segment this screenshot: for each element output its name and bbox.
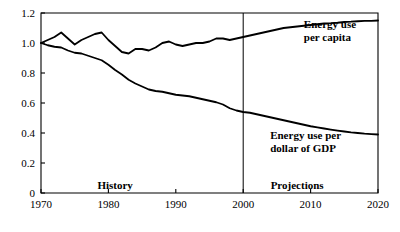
x-axis-tick-label: 2000 [232, 198, 255, 210]
series-line-energy-use-per-dollar-gdp [41, 43, 378, 135]
series-label-line: Energy use per [270, 129, 341, 141]
series-inline-labels: Energy useper capitaEnergy use perdollar… [270, 18, 356, 154]
y-axis-tick-label: 1.2 [21, 7, 35, 19]
y-axis-tick-label: 0.6 [21, 97, 35, 109]
period-label-history: History [97, 179, 133, 191]
energy-intensity-line-chart: 00.20.40.60.81.01.2 19701980199020002010… [0, 0, 400, 232]
series-label-energy-use-per-dollar-of-gdp: Energy use perdollar of GDP [270, 129, 341, 154]
x-axis-tick-label: 2020 [367, 198, 390, 210]
x-axis-tick-label: 1970 [30, 198, 53, 210]
period-annotations: HistoryProjections [97, 179, 324, 191]
x-axis-tick-label: 2010 [300, 198, 323, 210]
y-axis-tick-label: 0.8 [21, 67, 35, 79]
chart-container: 00.20.40.60.81.01.2 19701980199020002010… [0, 0, 400, 232]
period-label-projections: Projections [271, 179, 325, 191]
y-axis-tick-marks [41, 13, 45, 193]
x-axis-tick-labels: 197019801990200020102020 [30, 198, 390, 210]
y-axis-tick-label: 1.0 [21, 37, 35, 49]
series-label-energy-use-per-capita: Energy useper capita [304, 18, 356, 43]
y-axis-tick-label: 0.4 [21, 127, 35, 139]
x-axis-tick-label: 1980 [97, 198, 120, 210]
y-axis-tick-label: 0.2 [21, 157, 35, 169]
series-label-line: dollar of GDP [270, 142, 336, 154]
x-axis-tick-label: 1990 [165, 198, 188, 210]
series-label-line: per capita [304, 31, 352, 43]
x-axis-tick-marks [41, 189, 378, 193]
y-axis-tick-labels: 00.20.40.60.81.01.2 [21, 7, 35, 199]
series-label-line: Energy use [304, 18, 356, 30]
